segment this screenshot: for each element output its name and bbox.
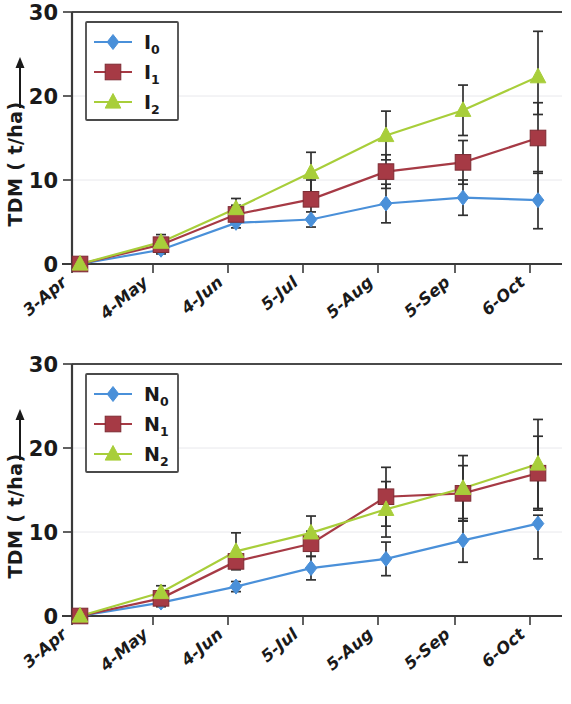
y-tick-label: 30	[29, 353, 58, 377]
marker-square	[105, 416, 121, 432]
x-tick-label: 6-Oct	[478, 272, 529, 319]
marker-diamond	[457, 533, 469, 548]
x-tick-label: 4-May	[96, 624, 153, 676]
x-tick-label: 6-Oct	[478, 624, 529, 671]
marker-square	[455, 155, 471, 171]
marker-square	[105, 64, 121, 80]
marker-square	[530, 130, 546, 146]
legend-label-subscript: 1	[151, 72, 160, 87]
x-tick-label: 4-Jun	[177, 625, 227, 671]
x-tick-label: 3-Apr	[19, 272, 71, 320]
y-tick-label: 0	[43, 253, 58, 277]
y-axis-arrow-head	[16, 57, 25, 68]
x-tick-label: 4-May	[96, 272, 153, 324]
chart-svg: 01020303-Apr4-May4-Jun5-Jul5-Aug5-Sep6-O…	[0, 0, 571, 352]
x-tick-label: 5-Jul	[257, 272, 302, 314]
x-tick-label: 5-Aug	[322, 624, 376, 674]
marker-square	[378, 164, 394, 180]
chart-svg: 01020303-Apr4-May4-Jun5-Jul5-Aug5-Sep6-O…	[0, 352, 571, 704]
x-tick-label: 4-Jun	[177, 273, 227, 319]
marker-triangle	[455, 102, 471, 117]
legend-label-subscript: 0	[151, 42, 160, 57]
marker-diamond	[305, 212, 317, 227]
marker-triangle	[530, 68, 546, 83]
marker-diamond	[532, 193, 544, 208]
marker-diamond	[305, 561, 317, 576]
y-tick-label: 10	[29, 169, 58, 193]
y-tick-label: 10	[29, 521, 58, 545]
marker-diamond	[380, 196, 392, 211]
y-axis-title: TDM ( t/ha)	[4, 101, 26, 226]
marker-diamond	[457, 190, 469, 205]
marker-diamond	[380, 551, 392, 566]
legend-label-subscript: 2	[151, 102, 160, 117]
legend-label-subscript: 2	[160, 454, 169, 469]
y-tick-label: 20	[29, 437, 58, 461]
marker-diamond	[532, 516, 544, 531]
x-tick-label: 5-Sep	[401, 624, 454, 673]
y-axis-arrow-head	[16, 409, 25, 420]
legend-label-subscript: 1	[160, 424, 169, 439]
y-tick-label: 30	[29, 1, 58, 25]
x-tick-label: 5-Sep	[401, 272, 454, 321]
x-tick-label: 3-Apr	[19, 624, 71, 672]
marker-triangle	[303, 164, 319, 179]
y-tick-label: 0	[43, 605, 58, 629]
legend-label-subscript: 0	[160, 394, 169, 409]
x-tick-label: 5-Jul	[257, 624, 302, 666]
marker-square	[303, 192, 319, 208]
figure-two-panel-tdm-chart: 01020303-Apr4-May4-Jun5-Jul5-Aug5-Sep6-O…	[0, 0, 571, 704]
x-tick-label: 5-Aug	[322, 272, 376, 322]
y-tick-label: 20	[29, 85, 58, 109]
marker-triangle	[530, 455, 546, 470]
y-axis-title: TDM ( t/ha)	[4, 453, 26, 578]
chart-panel-bottom: 01020303-Apr4-May4-Jun5-Jul5-Aug5-Sep6-O…	[0, 352, 571, 704]
chart-panel-top: 01020303-Apr4-May4-Jun5-Jul5-Aug5-Sep6-O…	[0, 0, 571, 352]
